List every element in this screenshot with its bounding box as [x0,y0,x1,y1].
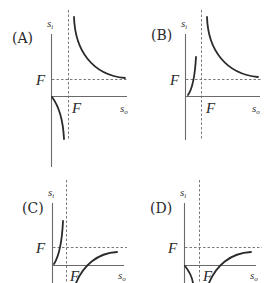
panel-c-curve-rising [54,221,63,264]
panel-d-x-axis-label: so [250,269,258,283]
panel-b-f-label-y: F [169,72,180,88]
panel-a-label: (A) [12,30,33,46]
panel-b-curve-virtual [188,57,196,95]
panel-b-y-axis-label: si [181,17,187,31]
panel-c-x-axis-label: so [118,269,126,283]
panel-a: (A) si F F so [12,10,128,167]
panel-d-curve-falling [185,266,193,283]
panel-c: (C) si F F so [22,180,127,283]
panel-a-f-label-y: F [35,72,46,88]
panel-c-y-axis-label: si [48,186,54,200]
panel-b: (B) si F F so [151,10,262,140]
panel-d-y-axis-label: si [180,186,186,200]
panel-d-f-label-x: F [202,268,213,283]
panel-c-f-label-y: F [35,240,46,256]
lens-graphs-figure: (A) si F F so (B) si F F so (C) si F F s… [0,0,267,283]
panel-d: (D) si F F so [150,180,262,283]
panel-b-f-label-x: F [205,100,216,116]
panel-a-curve-real [74,17,125,78]
panel-a-y-axis-label: si [47,17,53,31]
panel-c-f-label-x: F [69,268,80,283]
panel-a-f-label-x: F [71,100,82,116]
panel-d-curve-approaching [209,252,251,283]
panel-a-x-axis-label: so [120,102,128,116]
panel-a-curve-virtual [52,97,64,139]
panel-b-curve-real [207,17,258,77]
panel-b-x-axis-label: so [252,102,260,116]
panel-c-curve-approaching [76,252,117,283]
panel-b-label: (B) [151,27,172,43]
panel-d-f-label-y: F [167,240,178,256]
panel-c-label: (C) [22,200,44,216]
panel-d-label: (D) [150,200,172,216]
